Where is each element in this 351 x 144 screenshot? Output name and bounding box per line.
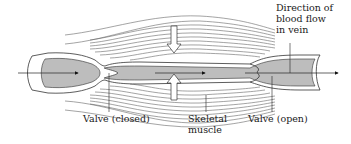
valve-open-label: Valve (open) (248, 113, 308, 124)
valve-closed-label: Valve (closed) (83, 113, 150, 124)
direction-label: Direction of blood flow in vein (276, 2, 333, 35)
skeletal-muscle-label: Skeletal muscle (188, 113, 227, 135)
upper-skeletal-muscle (65, 16, 275, 60)
